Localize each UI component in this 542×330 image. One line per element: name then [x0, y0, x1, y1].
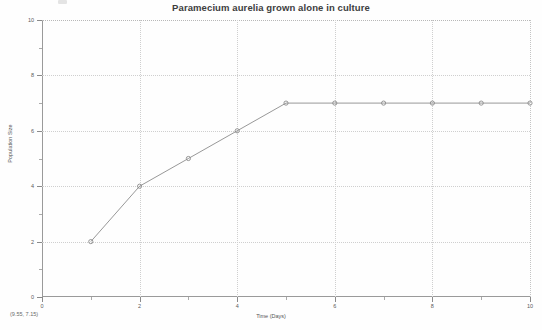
y-axis-tick: [37, 75, 42, 76]
x-axis-minor-tick: [286, 297, 287, 300]
chart-title: Paramecium aurelia grown alone in cultur…: [0, 2, 542, 14]
x-axis-title: Time (Days): [0, 313, 542, 320]
y-axis-tick: [37, 242, 42, 243]
coordinate-readout: (9.55, 7.15): [10, 311, 38, 318]
x-axis-tick: [237, 297, 238, 302]
x-axis-minor-tick: [481, 297, 482, 300]
gridline-horizontal: [42, 186, 530, 187]
y-axis-tick: [37, 20, 42, 21]
y-axis-minor-tick: [39, 159, 42, 160]
x-axis-tick: [140, 297, 141, 302]
gridline-vertical: [237, 20, 238, 297]
x-axis-tick: [335, 297, 336, 302]
plot-frame-right: [530, 20, 531, 297]
y-axis-title: Population Size: [7, 104, 14, 184]
gridline-horizontal: [42, 242, 530, 243]
gridline-horizontal: [42, 75, 530, 76]
x-axis-tick-label: 4: [227, 303, 247, 309]
y-axis-minor-tick: [39, 214, 42, 215]
y-axis-tick-label: 10: [6, 17, 34, 23]
x-axis-minor-tick: [188, 297, 189, 300]
x-axis-tick: [42, 297, 43, 302]
x-axis-tick-label: 8: [422, 303, 442, 309]
gridline-vertical: [432, 20, 433, 297]
x-axis-tick: [432, 297, 433, 302]
x-axis-tick-label: 10: [520, 303, 540, 309]
x-axis-tick-label: 2: [130, 303, 150, 309]
y-axis-tick: [37, 131, 42, 132]
y-axis-minor-tick: [39, 103, 42, 104]
plot-area: [42, 20, 530, 297]
y-axis-minor-tick: [39, 269, 42, 270]
x-axis-minor-tick: [91, 297, 92, 300]
y-axis-tick-label: 4: [6, 183, 34, 189]
y-axis-tick-label: 0: [6, 294, 34, 300]
plot-frame-top: [42, 20, 530, 21]
gridline-vertical: [140, 20, 141, 297]
y-axis-minor-tick: [39, 48, 42, 49]
x-axis-tick-label: 0: [32, 303, 52, 309]
x-axis-minor-tick: [384, 297, 385, 300]
y-axis-tick: [37, 186, 42, 187]
y-axis-tick-label: 8: [6, 72, 34, 78]
gridline-vertical: [335, 20, 336, 297]
y-axis-tick-label: 2: [6, 239, 34, 245]
x-axis-tick-label: 6: [325, 303, 345, 309]
x-axis-tick: [530, 297, 531, 302]
chart-container: Paramecium aurelia grown alone in cultur…: [0, 0, 542, 330]
gridline-horizontal: [42, 131, 530, 132]
